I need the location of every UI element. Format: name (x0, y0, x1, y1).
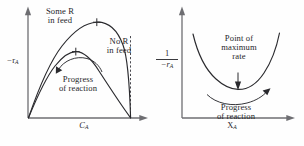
left-x-axis-label: CA (72, 122, 96, 131)
panel-left-rate-vs-concentration: Some R in feed No R in feed Progress of … (0, 0, 152, 146)
label-progress-of-reaction-right: Progress of reaction (204, 103, 268, 121)
panel-right-inverse-rate-vs-conversion: Point of maximum rate Progress of reacti… (152, 0, 304, 146)
peak-marker-some-r (93, 18, 101, 26)
peak-marker-no-r (72, 48, 80, 56)
label-progress-of-reaction-left: Progress of reaction (47, 75, 109, 93)
right-y-axis (179, 7, 185, 119)
left-y-axis-label: −rA (1, 57, 25, 66)
right-x-axis-label: XA (220, 122, 244, 131)
max-rate-pointer-arrow (235, 73, 241, 91)
figure-root: Some R in feed No R in feed Progress of … (0, 0, 304, 146)
right-y-axis-label: 1 −rA (156, 50, 178, 70)
label-point-of-maximum-rate: Point of maximum rate (212, 34, 266, 61)
label-no-r-in-feed: No R in feed (98, 37, 140, 55)
label-some-r-in-feed: Some R in feed (34, 7, 86, 25)
left-y-axis (25, 7, 31, 119)
